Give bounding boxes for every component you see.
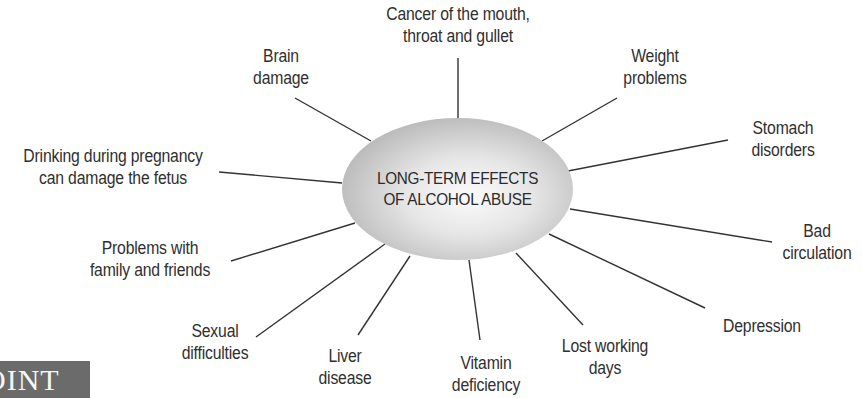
connector-vitamin bbox=[469, 260, 480, 340]
effect-stomach-line1: Stomach bbox=[738, 117, 828, 139]
effect-family-line1: Problems with bbox=[78, 237, 222, 259]
effect-depression-line1: Depression bbox=[713, 315, 812, 337]
effect-brain: Brain damage bbox=[240, 45, 323, 89]
effect-vitamin-line1: Vitamin bbox=[443, 352, 529, 374]
connector-depression bbox=[549, 234, 705, 308]
effect-weight-line2: problems bbox=[606, 67, 705, 89]
effect-stomach-line2: disorders bbox=[738, 139, 828, 161]
effect-weight-line1: Weight bbox=[606, 45, 705, 67]
effect-lost-work-line1: Lost working bbox=[556, 335, 655, 357]
effect-pregnancy: Drinking during pregnancy can damage the… bbox=[11, 145, 214, 189]
effect-cancer-line2: throat and gullet bbox=[371, 25, 546, 47]
effect-cancer-line1: Cancer of the mouth, bbox=[371, 3, 546, 25]
effect-stomach: Stomach disorders bbox=[738, 117, 828, 161]
effect-pregnancy-line1: Drinking during pregnancy bbox=[11, 145, 214, 167]
effect-circulation-line1: Bad bbox=[772, 220, 862, 242]
effect-lost-work-line2: days bbox=[556, 357, 655, 379]
effect-cancer: Cancer of the mouth, throat and gullet bbox=[371, 3, 546, 47]
effect-liver: Liver disease bbox=[309, 345, 381, 389]
effect-vitamin-line2: deficiency bbox=[443, 374, 529, 396]
effect-sexual-line1: Sexual bbox=[170, 320, 260, 342]
effect-liver-line1: Liver bbox=[309, 345, 381, 367]
center-title: LONG-TERM EFFECTS OF ALCOHOL ABUSE bbox=[354, 118, 562, 260]
effect-liver-line2: disease bbox=[309, 367, 381, 389]
connector-lost-work bbox=[516, 253, 583, 325]
effect-sexual-line2: difficulties bbox=[170, 342, 260, 364]
effect-depression: Depression bbox=[713, 315, 812, 337]
connector-pregnancy bbox=[219, 172, 342, 183]
connector-stomach bbox=[568, 140, 728, 171]
effect-pregnancy-line2: can damage the fetus bbox=[11, 167, 214, 189]
center-title-line2: OF ALCOHOL ABUSE bbox=[383, 189, 531, 210]
effect-circulation: Bad circulation bbox=[772, 220, 862, 264]
center-title-line1: LONG-TERM EFFECTS bbox=[377, 168, 538, 189]
mind-map-diagram: LONG-TERM EFFECTS OF ALCOHOL ABUSE Cance… bbox=[0, 0, 862, 398]
connector-family bbox=[231, 223, 355, 261]
effect-vitamin: Vitamin deficiency bbox=[443, 352, 529, 396]
effect-family-line2: family and friends bbox=[78, 259, 222, 281]
effect-weight: Weight problems bbox=[606, 45, 705, 89]
effect-brain-line1: Brain bbox=[240, 45, 323, 67]
section-badge-text: OINT bbox=[0, 363, 60, 397]
section-badge: OINT bbox=[0, 361, 90, 398]
effect-lost-work: Lost working days bbox=[556, 335, 655, 379]
effect-family: Problems with family and friends bbox=[78, 237, 222, 281]
connector-liver bbox=[358, 256, 410, 335]
effect-circulation-line2: circulation bbox=[772, 242, 862, 264]
effect-sexual: Sexual difficulties bbox=[170, 320, 260, 364]
effect-brain-line2: damage bbox=[240, 67, 323, 89]
connector-circulation bbox=[570, 209, 772, 242]
